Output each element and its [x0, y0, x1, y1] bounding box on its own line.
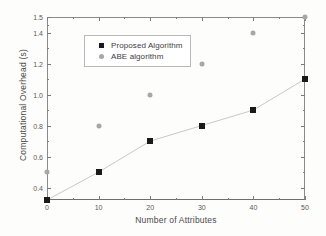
y-tick-label: 0.4 [21, 184, 43, 191]
x-major-tick [305, 196, 306, 200]
y-major-tick [47, 95, 51, 96]
legend-label-proposed-algorithm: Proposed Algorithm [111, 41, 183, 50]
chart-figure: 01020304050 0.40.60.81.01.21.41.5 Propos… [0, 0, 326, 236]
y-major-tick-right [301, 126, 305, 127]
x-minor-tick-top [279, 17, 280, 19]
x-minor-tick [73, 198, 74, 200]
x-minor-tick [176, 198, 177, 200]
y-major-tick [47, 17, 51, 18]
y-major-tick-right [301, 95, 305, 96]
x-minor-tick-top [176, 17, 177, 19]
legend-swatch-square-icon [91, 43, 111, 48]
y-minor-tick [47, 110, 49, 111]
y-axis-title: Computational Overhead (s) [18, 30, 28, 180]
x-major-tick [202, 196, 203, 200]
x-minor-tick-top [228, 17, 229, 19]
data-point-abe-algorithm [303, 15, 308, 20]
x-minor-tick [124, 198, 125, 200]
x-major-tick [253, 196, 254, 200]
y-tick-label: 1.5 [21, 14, 43, 21]
chart-legend: Proposed Algorithm ABE algorithm [84, 35, 191, 67]
y-major-tick [47, 157, 51, 158]
y-minor-tick-right [303, 141, 305, 142]
y-minor-tick [47, 141, 49, 142]
y-major-tick [47, 64, 51, 65]
y-major-tick [47, 188, 51, 189]
y-major-tick-right [301, 188, 305, 189]
data-point-proposed-algorithm [147, 138, 153, 144]
y-major-tick-right [301, 33, 305, 34]
x-major-tick [150, 196, 151, 200]
y-minor-tick-right [303, 110, 305, 111]
y-minor-tick [47, 48, 49, 49]
data-point-abe-algorithm [148, 92, 153, 97]
data-point-proposed-algorithm [44, 197, 50, 203]
x-axis-title: Number of Attributes [47, 215, 305, 225]
x-major-tick-top [202, 17, 203, 21]
data-point-abe-algorithm [45, 170, 50, 175]
y-major-tick-right [301, 64, 305, 65]
y-minor-tick-right [303, 25, 305, 26]
x-major-tick-top [99, 17, 100, 21]
x-major-tick [99, 196, 100, 200]
y-minor-tick-right [303, 48, 305, 49]
legend-item-proposed-algorithm: Proposed Algorithm [91, 40, 183, 51]
data-point-proposed-algorithm [302, 76, 308, 82]
data-point-abe-algorithm [251, 30, 256, 35]
data-point-proposed-algorithm [250, 107, 256, 113]
legend-swatch-circle-icon [91, 54, 111, 59]
data-point-proposed-algorithm [96, 169, 102, 175]
x-minor-tick-top [124, 17, 125, 19]
y-major-tick [47, 126, 51, 127]
data-point-abe-algorithm [96, 123, 101, 128]
x-tick-label: 20 [146, 204, 154, 211]
x-tick-label: 10 [95, 204, 103, 211]
x-tick-label: 30 [198, 204, 206, 211]
x-tick-label: 0 [45, 204, 49, 211]
y-major-tick [47, 33, 51, 34]
y-major-tick-right [301, 157, 305, 158]
x-minor-tick [228, 198, 229, 200]
data-point-abe-algorithm [199, 61, 204, 66]
data-point-proposed-algorithm [199, 123, 205, 129]
legend-label-abe-algorithm: ABE algorithm [111, 52, 163, 61]
x-major-tick-top [150, 17, 151, 21]
legend-item-abe-algorithm: ABE algorithm [91, 51, 183, 62]
x-minor-tick [279, 198, 280, 200]
x-tick-label: 40 [249, 204, 257, 211]
y-minor-tick-right [303, 172, 305, 173]
y-minor-tick [47, 25, 49, 26]
y-minor-tick [47, 79, 49, 80]
x-minor-tick-top [73, 17, 74, 19]
x-major-tick-top [253, 17, 254, 21]
x-tick-label: 50 [301, 204, 309, 211]
